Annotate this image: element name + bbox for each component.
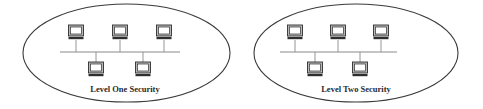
screen: [159, 27, 170, 34]
screen: [138, 64, 149, 71]
security-level-label: Level One Security: [90, 84, 160, 94]
keyboard-icon: [113, 37, 128, 39]
screen: [290, 27, 301, 34]
computer-icon: [157, 25, 172, 39]
keyboard-icon: [288, 37, 303, 39]
keyboard-icon: [136, 74, 151, 76]
keyboard-icon: [374, 37, 389, 39]
computer-icon: [113, 25, 128, 39]
level-two-security-network: Level Two Security: [254, 4, 458, 102]
screen: [355, 64, 366, 71]
security-level-label: Level Two Security: [321, 84, 391, 94]
computer-icon: [331, 25, 346, 39]
keyboard-icon: [308, 74, 323, 76]
computer-icon: [89, 62, 104, 76]
keyboard-icon: [353, 74, 368, 76]
computer-icon: [136, 62, 151, 76]
level-one-security-network: Level One Security: [23, 4, 230, 102]
screen: [91, 64, 102, 71]
keyboard-icon: [69, 37, 84, 39]
screen: [115, 27, 126, 34]
screen: [333, 27, 344, 34]
security-levels-diagram: Level One Security Level Two Security: [0, 0, 483, 109]
screen: [310, 64, 321, 71]
computer-icon: [374, 25, 389, 39]
keyboard-icon: [157, 37, 172, 39]
screen: [71, 27, 82, 34]
screen: [376, 27, 387, 34]
computer-icon: [69, 25, 84, 39]
keyboard-icon: [331, 37, 346, 39]
keyboard-icon: [89, 74, 104, 76]
computer-icon: [288, 25, 303, 39]
computer-icon: [308, 62, 323, 76]
computer-icon: [353, 62, 368, 76]
